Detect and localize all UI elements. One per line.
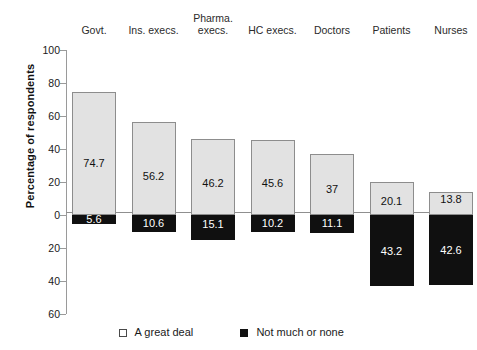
y-axis-line bbox=[66, 50, 67, 314]
y-axis-tick-label: 40 bbox=[26, 144, 60, 154]
y-axis-tick-label: 60 bbox=[26, 111, 60, 121]
chart-legend: A great deal Not much or none bbox=[0, 326, 463, 338]
y-axis-tick-label-text: 100 bbox=[30, 45, 60, 55]
y-axis-tick bbox=[60, 116, 66, 117]
y-axis-tick bbox=[60, 149, 66, 150]
bar-value-label: 13.8 bbox=[429, 194, 473, 205]
y-axis-tick-label-text: 20 bbox=[30, 177, 60, 187]
bar-value-label: 15.1 bbox=[191, 219, 235, 230]
y-axis-tick-label: 40 bbox=[26, 276, 60, 286]
y-axis-tick-label-text: 40 bbox=[30, 276, 60, 286]
dark-square-icon bbox=[240, 329, 248, 337]
y-axis-tick-label-text: 60 bbox=[30, 111, 60, 121]
y-axis-tick bbox=[60, 83, 66, 84]
category-header: Nurses bbox=[415, 24, 477, 36]
y-axis-tick bbox=[60, 182, 66, 183]
bar-value-label: 74.7 bbox=[72, 158, 116, 169]
legend-item-a-great-deal: A great deal bbox=[119, 326, 193, 338]
y-axis-tick bbox=[60, 314, 66, 315]
bar-positive bbox=[72, 92, 116, 215]
light-square-icon bbox=[119, 329, 127, 337]
y-axis-tick-label: 20 bbox=[26, 243, 60, 253]
legend-item-not-much-or-none: Not much or none bbox=[240, 326, 344, 338]
y-axis-tick-label-text: 80 bbox=[30, 78, 60, 88]
bar-value-label: 42.6 bbox=[429, 245, 473, 256]
bar-value-label: 10.2 bbox=[251, 218, 295, 229]
category-header-line: Nurses bbox=[415, 24, 477, 36]
bar-value-label: 43.2 bbox=[370, 246, 414, 257]
y-axis-tick-label-text: 60 bbox=[30, 309, 60, 319]
y-axis-tick-label: 60 bbox=[26, 309, 60, 319]
bar-value-label: 10.6 bbox=[132, 218, 176, 229]
y-axis-tick bbox=[60, 281, 66, 282]
y-axis-tick-label: 100 bbox=[26, 45, 60, 55]
y-axis-tick-label-text: 20 bbox=[30, 243, 60, 253]
legend-label: A great deal bbox=[135, 326, 194, 338]
bar-positive bbox=[132, 122, 176, 215]
bar-value-label: 11.1 bbox=[310, 218, 354, 229]
bar-value-label: 5.6 bbox=[72, 214, 116, 225]
y-axis-tick-label: 20 bbox=[26, 177, 60, 187]
bar-value-label: 46.2 bbox=[191, 178, 235, 189]
y-axis-tick bbox=[60, 215, 66, 216]
y-axis-tick bbox=[60, 50, 66, 51]
y-axis-tick bbox=[60, 248, 66, 249]
category-header-line: Pharma. bbox=[177, 12, 249, 24]
legend-label: Not much or none bbox=[256, 326, 343, 338]
y-axis-tick-label-text: 40 bbox=[30, 144, 60, 154]
y-axis-tick-label: 80 bbox=[26, 78, 60, 88]
bar-value-label: 37 bbox=[310, 184, 354, 195]
y-axis-tick-label-text: 0 bbox=[30, 210, 60, 220]
bar-value-label: 56.2 bbox=[132, 171, 176, 182]
bar-value-label: 45.6 bbox=[251, 178, 295, 189]
bar-value-label: 20.1 bbox=[370, 196, 414, 207]
y-axis-tick-label: 0 bbox=[26, 210, 60, 220]
